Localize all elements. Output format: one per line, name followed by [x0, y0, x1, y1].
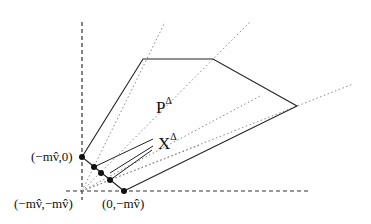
label-x-sup: Δ	[170, 131, 176, 142]
polygon-x-edge-upper	[94, 139, 153, 167]
label-p-sup: Δ	[165, 95, 171, 106]
label-x: X	[158, 134, 170, 153]
label-p-delta: PΔ	[156, 98, 172, 116]
x-pointer-line	[110, 146, 153, 173]
label-point-a: (−mv̂,0)	[31, 150, 73, 163]
diagram-canvas	[0, 0, 371, 224]
label-x-delta: XΔ	[158, 134, 177, 152]
label-point-b: (0,−mv̂)	[102, 197, 144, 210]
polygon-x-edge-lower	[110, 150, 152, 180]
label-point-origin: (−mv̂,−mv̂)	[14, 197, 73, 210]
dotted-rays	[82, 22, 353, 191]
